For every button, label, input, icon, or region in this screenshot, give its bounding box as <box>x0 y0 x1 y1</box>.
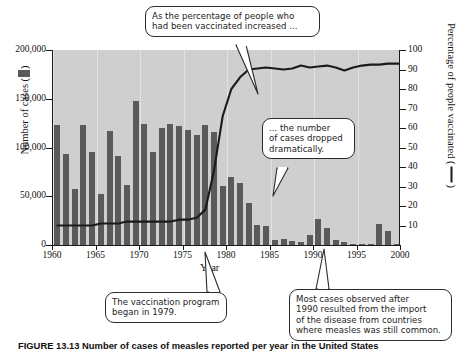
x-axis-tick-label: 1980 <box>206 250 246 260</box>
y-axis-right-tick-label: 90 <box>408 65 418 75</box>
x-axis-tick-label: 1985 <box>250 250 290 260</box>
y-axis-right-tick <box>400 89 406 90</box>
y-axis-right-tick <box>400 187 406 188</box>
y-axis-right-title: Percentage of people vaccinated () <box>446 11 457 201</box>
x-axis-tick-label: 2000 <box>380 250 420 260</box>
x-axis-tick-label: 1960 <box>32 250 72 260</box>
y-axis-left-tick <box>46 196 52 197</box>
callout-line: dramatically. <box>269 144 348 154</box>
line-legend-swatch <box>451 167 453 183</box>
y-axis-right-tick <box>400 50 406 51</box>
y-axis-right-tick <box>400 148 406 149</box>
figure-container: 200,000150,000100,00050,0000100908070605… <box>0 0 472 356</box>
callout-program-began: The vaccination programbegan in 1979. <box>105 292 227 323</box>
y-axis-right-tick-label: 70 <box>408 104 418 114</box>
y-axis-left-title: Number of cases () <box>18 40 30 180</box>
y-axis-right-tick-label: 20 <box>408 201 418 211</box>
x-axis-tick-label: 1975 <box>163 250 203 260</box>
callout-vaccination-percentage: As the percentage of people whohad been … <box>145 6 320 37</box>
y-axis-right-tick <box>400 128 406 129</box>
callout-line: Most cases observed after <box>296 294 445 304</box>
x-axis-tick-label: 1995 <box>337 250 377 260</box>
callout-line: The vaccination program <box>112 297 220 307</box>
y-axis-left-line <box>52 50 53 246</box>
y-axis-right-tick-label: 100 <box>408 45 422 55</box>
x-axis-tick-label: 1970 <box>119 250 159 260</box>
callout-line: ... the number <box>269 123 348 133</box>
y-axis-right-tick-label: 80 <box>408 84 418 94</box>
y-axis-right-tick <box>400 70 406 71</box>
y-axis-right-tick <box>400 167 406 168</box>
y-axis-left-title-text: Number of cases ( <box>19 78 30 155</box>
y-axis-left-title-close: ) <box>19 65 30 69</box>
x-axis-tick-label: 1990 <box>293 250 333 260</box>
y-axis-right-tick <box>400 109 406 110</box>
callout-line: As the percentage of people who <box>152 11 313 21</box>
y-axis-left-tick <box>46 148 52 149</box>
callout-cases-dropped: ... the numberof cases droppeddramatical… <box>262 118 355 159</box>
callout-line: had been vaccinated increased ... <box>152 21 313 31</box>
y-axis-left-tick <box>46 50 52 51</box>
callout-imported-cases: Most cases observed after1990 resulted f… <box>289 289 452 341</box>
y-axis-right-tick-label: 30 <box>408 182 418 192</box>
y-axis-right-tick-label: 10 <box>408 221 418 231</box>
y-axis-right-tick-label: 50 <box>408 143 418 153</box>
figure-caption: FIGURE 13.13 Number of cases of measles … <box>18 340 379 351</box>
y-axis-right-tick <box>400 206 406 207</box>
callout-line: began in 1979. <box>112 307 220 317</box>
y-axis-left-tick-label: 0 <box>0 240 46 250</box>
y-axis-right-title-text: Percentage of people vaccinated ( <box>446 23 457 165</box>
callout-line: where measles was still common. <box>296 325 445 335</box>
x-axis-tick-label: 1965 <box>76 250 116 260</box>
y-axis-right-tick-label: 40 <box>408 162 418 172</box>
callout-line: 1990 resulted from the import <box>296 304 445 314</box>
y-axis-right-title-close: ) <box>446 185 457 189</box>
y-axis-right-tick <box>400 226 406 227</box>
callout-line: of the disease from countries <box>296 315 445 325</box>
callout-line: of cases dropped <box>269 133 348 143</box>
y-axis-left-tick <box>46 99 52 100</box>
y-axis-right-tick-label: 60 <box>408 123 418 133</box>
y-axis-left-tick-label: 50,000 <box>0 191 46 201</box>
x-axis-title: Year <box>200 262 219 273</box>
bar-legend-swatch <box>18 70 30 77</box>
